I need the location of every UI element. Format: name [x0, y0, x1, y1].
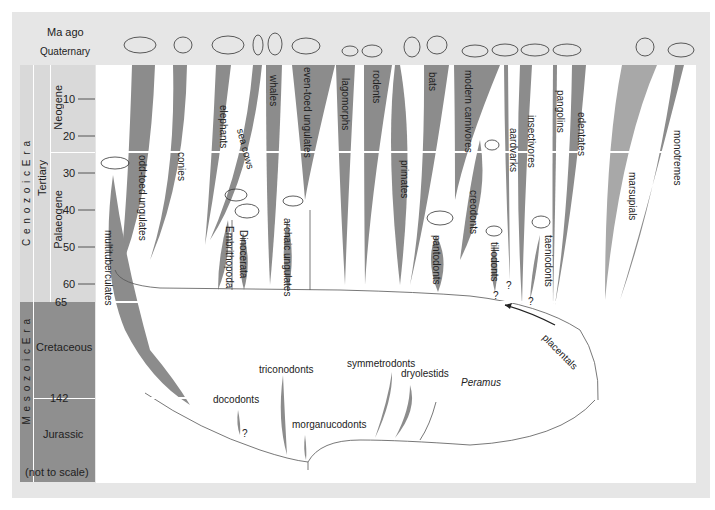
label-primates: primates: [399, 160, 410, 198]
label-aardvarks: aardvarks: [508, 128, 519, 172]
label-whales: whales: [268, 75, 279, 106]
label-triconodonts: triconodonts: [259, 364, 313, 375]
label-embrithopoda: Embrithopoda: [224, 226, 235, 288]
label-odd-toed-ungulates: odd-toed ungulates: [137, 155, 148, 241]
label-pantodonts: pantodonts: [431, 235, 442, 285]
label-even-toed-ungulates: even-toed ungulates: [302, 67, 313, 158]
label-morganucodonts: morganucodonts: [292, 419, 367, 430]
label-dryolestids: dryolestids: [401, 368, 449, 379]
label-elephants: elephants: [218, 105, 229, 148]
uncertain-mark: ?: [506, 280, 512, 291]
label-monotremes: monotremes: [672, 130, 683, 186]
uncertain-mark: ?: [493, 290, 499, 301]
label-multituberculates: multituberculates: [103, 230, 114, 306]
label-tillodonts: tillodonts: [489, 242, 500, 281]
label-dinocerata: Dinocerata: [238, 230, 249, 278]
label-creodonts: creodonts: [468, 190, 479, 234]
label-bats: bats: [427, 72, 438, 91]
label-modern-carnivores: modern carnivores: [463, 70, 474, 153]
label-archaic-ungulates: archaic ungulates: [282, 218, 293, 296]
label-marsupials: marsupials: [627, 172, 638, 220]
label-docodonts: docodonts: [213, 394, 259, 405]
uncertain-mark: ?: [242, 428, 248, 439]
label-edentates: edentates: [576, 112, 587, 156]
label-conies: conies: [176, 152, 187, 181]
label-taeniodonts: taeniodonts: [543, 235, 554, 287]
label-peramus: Peramus: [461, 377, 501, 388]
label-rodents: rodents: [371, 70, 382, 103]
uncertain-mark: ?: [528, 296, 534, 307]
label-lagomorphs: lagomorphs: [340, 78, 351, 130]
label-pangolins: pangolins: [555, 90, 566, 133]
label-insectivores: insectivores: [526, 115, 537, 168]
